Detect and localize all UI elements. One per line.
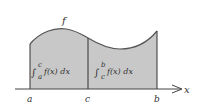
lower-limit-right: c — [101, 73, 105, 81]
area-under-curve — [30, 29, 157, 89]
integral-additivity-diagram: f x a c b ∫ c a f(x) dx ∫ b c f(x) dx — [0, 0, 199, 108]
lower-limit-left: a — [38, 73, 42, 81]
integrand-right: f(x) dx — [106, 67, 133, 76]
integral-sign-right: ∫ — [94, 67, 99, 78]
integrand-left: f(x) dx — [43, 67, 70, 76]
upper-limit-right: b — [101, 61, 106, 69]
axis-label-x: x — [184, 84, 190, 95]
point-label-a: a — [27, 94, 32, 104]
point-label-b: b — [154, 94, 160, 104]
integral-sign-left: ∫ — [31, 67, 36, 78]
point-label-c: c — [85, 94, 90, 104]
function-label: f — [61, 15, 68, 26]
upper-limit-left: c — [38, 61, 42, 69]
